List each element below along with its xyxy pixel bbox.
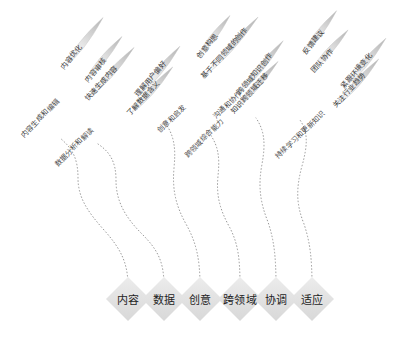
branch-stem — [256, 118, 276, 286]
node-label: 跨领域 — [223, 291, 258, 307]
branch-stem — [98, 144, 164, 286]
branch-stem — [210, 134, 240, 286]
diagram-canvas: 内容优化内容审核快速生成内容内容生成和编辑内容理解用户偏好了解数据含义数据分析和… — [0, 0, 418, 337]
node-label: 数据 — [153, 291, 176, 307]
branch-stem — [298, 120, 312, 286]
node-label: 创意 — [189, 291, 212, 307]
node-label: 适应 — [301, 291, 324, 307]
branch-stem — [60, 138, 128, 286]
node-label: 协调 — [265, 291, 288, 307]
node-label: 内容 — [117, 291, 140, 307]
stems-group — [60, 118, 312, 286]
